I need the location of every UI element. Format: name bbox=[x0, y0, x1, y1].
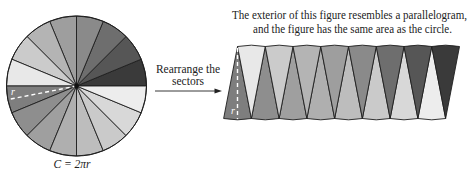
rearranged-parallelogram: r bbox=[224, 45, 460, 120]
rearrange-arrow-group: Rearrange the sectors bbox=[155, 63, 222, 94]
caption-line2: and the figure has the same area as the … bbox=[253, 22, 452, 36]
circle-area-diagram: r C = 2πr Rearrange the sectors The exte… bbox=[0, 0, 471, 175]
caption-line1: The exterior of this figure resembles a … bbox=[232, 8, 467, 22]
circle-radius-label: r bbox=[11, 86, 15, 97]
circle-center-dot bbox=[74, 84, 79, 89]
arrowhead-icon bbox=[215, 88, 223, 93]
arrow-label-line2: sectors bbox=[172, 75, 204, 87]
parallelogram-radius-label: r bbox=[231, 105, 235, 116]
parallelogram-caption: The exterior of this figure resembles a … bbox=[232, 8, 467, 36]
sectored-circle: r C = 2πr bbox=[7, 16, 147, 170]
circumference-formula: C = 2πr bbox=[53, 158, 91, 170]
